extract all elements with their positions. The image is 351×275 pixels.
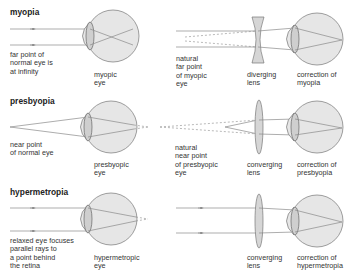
diverging-lens [252,17,264,63]
eye-lens [291,113,299,141]
presbyopia-title: presbyopia [10,96,55,106]
converged-ray [259,208,295,210]
hypermetropia-lens-caption: converging lens [247,254,282,271]
myopia-virtual-caption: natural far point of myopic eye [176,55,207,89]
presbyopia-virtual-caption: natural near point of presbyopic eye [175,144,218,178]
hypermetropia-correction-caption: correction of hypermetropia [297,254,343,271]
diagram-canvas [0,0,351,275]
eye-lens [291,25,299,53]
hypermetropia-left-caption: relaxed eye focuses parallel rays to a p… [10,237,74,271]
virtual-ray [185,31,257,37]
presbyopic-eyeball [85,101,137,153]
incoming-ray-bottom [10,127,88,137]
myopia-correction-caption: correction of myopia [297,71,337,88]
myopia-title: myopia [10,7,39,17]
eye-lens [291,207,299,235]
eye-lens [86,22,94,50]
incoming-ray-top [10,117,88,127]
presbyopia-eye-caption: presbyopic eye [94,161,129,178]
hypermetropia-title: hypermetropia [10,187,68,197]
hypermetropia-right-panel [176,194,343,248]
converged-ray [259,232,295,233]
virtual-ray [185,41,257,47]
converging-lens [255,100,263,154]
presbyopia-left-caption: near point of normal eye [10,141,54,158]
virtual-ray [160,127,258,134]
eye-lens [84,205,92,233]
virtual-ray [160,120,258,127]
virtual-ray [136,217,148,219]
virtual-ray [136,219,148,221]
myopic-eyeball [87,10,139,62]
myopia-eye-caption: myopic eye [94,71,117,88]
myopia-lens-caption: diverging lens [247,71,276,88]
presbyopia-lens-caption: converging lens [247,161,282,178]
hypermetropic-eyeball [85,193,137,245]
presbyopia-correction-caption: correction of presbyopia [297,161,337,178]
myopia-left-caption: far point of normal eye is at infinity [10,51,53,76]
converging-lens [255,194,263,248]
hypermetropia-eye-caption: hypermetropic eye [94,254,140,271]
